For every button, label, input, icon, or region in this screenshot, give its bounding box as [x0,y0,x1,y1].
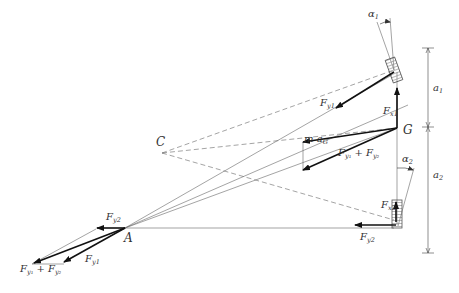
fy-sum-center-label: Fy₁ + Fy₂ [338,148,379,161]
fy1-a-label: Fy1 [85,254,100,267]
fy1-front-label: Fy1 [320,98,335,111]
alpha1-arc [380,22,390,24]
point-g-label: G [403,124,413,136]
point-c-label: C [156,136,165,148]
vehicle-force-diagram [0,0,459,293]
a1-label: a1 [433,83,443,96]
fy-sum-a-label: Fy₁ + Fy₂ [20,264,61,277]
alpha2-arc [397,168,413,170]
construction-lines [32,18,414,264]
front-tyre [385,57,403,83]
force-arrows [34,72,397,263]
mass-accel-label: m aG [304,134,328,147]
fy2-rear-label: Fy2 [360,232,375,245]
alpha2-label: α2 [402,154,413,167]
fx2-label: Fx2 [381,200,396,213]
a2-label: a2 [433,170,443,183]
fx1-label: Fx1 [383,106,398,119]
dimension-line [422,48,434,253]
point-a-label: A [124,232,133,244]
alpha1-label: α1 [368,9,379,22]
fy2-a-label: Fy2 [106,212,121,225]
